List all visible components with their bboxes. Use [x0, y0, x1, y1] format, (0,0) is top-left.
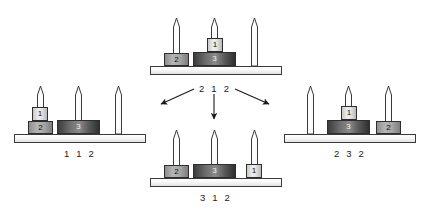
config-right: 3 1 2	[284, 78, 416, 143]
disk-3: 3	[193, 52, 236, 66]
disk-label: 3	[346, 123, 350, 131]
disk-1: 1	[246, 164, 262, 178]
disk-label: 3	[212, 167, 216, 175]
disk-label: 3	[76, 123, 80, 131]
board-base	[150, 66, 282, 75]
disk-label: 1	[38, 110, 42, 118]
peg-3	[250, 17, 259, 66]
config-top: 2 3 1	[150, 10, 282, 75]
config-left: 2 1 3	[14, 78, 146, 143]
disk-label: 3	[212, 55, 216, 63]
disk-label: 2	[174, 168, 178, 176]
disk-1: 1	[32, 107, 48, 121]
disk-2: 2	[164, 165, 189, 178]
state-label-right: 2 3 2	[284, 148, 416, 159]
hanoi-board: 2 3 1	[150, 122, 282, 187]
disk-2: 2	[376, 121, 401, 134]
hanoi-state-diagram: 2 3 1 2 1 2	[0, 0, 430, 215]
disk-2: 2	[164, 53, 189, 66]
disk-3: 3	[193, 164, 236, 178]
disk-3: 3	[327, 120, 370, 134]
state-label-bottom: 3 1 2	[150, 192, 282, 203]
board-base	[14, 134, 146, 143]
disk-1: 1	[341, 106, 357, 120]
transition-label: 2 1 2	[199, 83, 231, 94]
disk-label: 2	[38, 124, 42, 132]
disk-label: 1	[347, 109, 351, 117]
board-base	[284, 134, 416, 143]
disk-1: 1	[207, 38, 223, 52]
state-label-left: 1 1 2	[14, 148, 146, 159]
disk-3: 3	[57, 120, 100, 134]
arrow-to-right-state	[235, 89, 269, 104]
disk-label: 2	[174, 56, 178, 64]
peg-3	[114, 85, 123, 134]
disk-label: 1	[252, 167, 256, 175]
config-bottom: 2 3 1	[150, 122, 282, 187]
hanoi-board: 2 1 3	[14, 78, 146, 143]
hanoi-board: 2 3 1	[150, 10, 282, 75]
hanoi-board: 3 1 2	[284, 78, 416, 143]
arrow-to-left-state	[161, 89, 194, 104]
disk-2: 2	[28, 121, 53, 134]
peg-1	[306, 85, 315, 134]
disk-label: 1	[213, 41, 217, 49]
board-base	[150, 178, 282, 187]
disk-label: 2	[386, 124, 390, 132]
